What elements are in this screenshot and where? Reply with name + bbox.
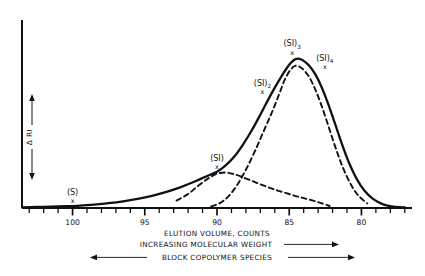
peak-marker-SI: x xyxy=(215,163,219,171)
x-tick-label: 85 xyxy=(284,218,294,227)
x-tick-label: 95 xyxy=(140,218,150,227)
peak-marker-S: x xyxy=(71,197,75,205)
y-axis-label: Δ RI xyxy=(25,129,34,145)
peak-marker-SI3: x xyxy=(290,49,294,57)
caption-molecular-weight: INCREASING MOLECULAR WEIGHT xyxy=(140,240,273,249)
peak-label-S: (S) xyxy=(67,188,78,197)
peak-marker-SI4: x xyxy=(323,63,327,71)
peak-marker-SI2: x xyxy=(261,88,265,96)
x-tick-label: 80 xyxy=(357,218,367,227)
caption-elution-volume: ELUTION VOLUME, COUNTS xyxy=(164,229,270,238)
chromatogram-figure: 80859095100 Δ RI x(S)x(SI)x(SI)2x(SI)3x(… xyxy=(0,0,425,276)
caption-block-copolymer: BLOCK COPOLYMER SPECIES xyxy=(162,253,272,262)
x-tick-label: 100 xyxy=(65,218,80,227)
peak-label-SI: (SI) xyxy=(210,154,224,163)
x-tick-label: 90 xyxy=(212,218,222,227)
